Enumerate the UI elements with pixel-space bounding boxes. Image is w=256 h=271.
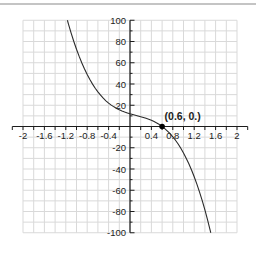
marked-point <box>159 124 165 130</box>
graph-panel: -2-1.6-1.2-0.8-0.40.40.81.21.62100806040… <box>0 0 256 271</box>
y-tick-label: -40 <box>112 164 126 175</box>
y-tick-label: -80 <box>112 206 126 217</box>
point-annotation-label: (0.6, 0.) <box>165 110 201 122</box>
x-tick-label: 1.2 <box>188 130 201 141</box>
function-graph: -2-1.6-1.2-0.8-0.40.40.81.21.62100806040… <box>0 0 256 271</box>
x-tick-label: 0.4 <box>145 130 158 141</box>
x-tick-label: -1.2 <box>58 130 74 141</box>
x-tick-label: 2 <box>234 130 239 141</box>
x-tick-label: 1.6 <box>209 130 222 141</box>
x-tick-label: -0.4 <box>100 130 116 141</box>
y-tick-label: 40 <box>115 79 126 90</box>
y-tick-label: 60 <box>115 57 126 68</box>
y-tick-label: -100 <box>107 227 126 238</box>
x-tick-label: -2 <box>19 130 27 141</box>
y-tick-label: -60 <box>112 185 126 196</box>
y-tick-label: 80 <box>115 36 126 47</box>
y-tick-label: -20 <box>112 142 126 153</box>
x-tick-label: -1.6 <box>36 130 52 141</box>
y-tick-label: 100 <box>110 15 126 26</box>
x-tick-label: -0.8 <box>79 130 95 141</box>
